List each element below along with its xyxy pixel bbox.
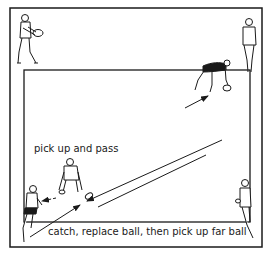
label-catch-replace: catch, replace ball, then pick up far ba… (48, 226, 247, 237)
pass-arrows (30, 96, 222, 237)
player-top-left-holding-ball (17, 15, 43, 64)
player-top-right-standing (243, 19, 256, 73)
player-bottom-left-running (23, 186, 42, 243)
outer-boundary (10, 8, 262, 247)
label-pick-up-and-pass: pick up and pass (34, 143, 118, 154)
drill-diagram (0, 0, 270, 261)
player-bending-picking-up-far-ball (195, 60, 231, 92)
player-crouching-near-ball (59, 159, 82, 195)
